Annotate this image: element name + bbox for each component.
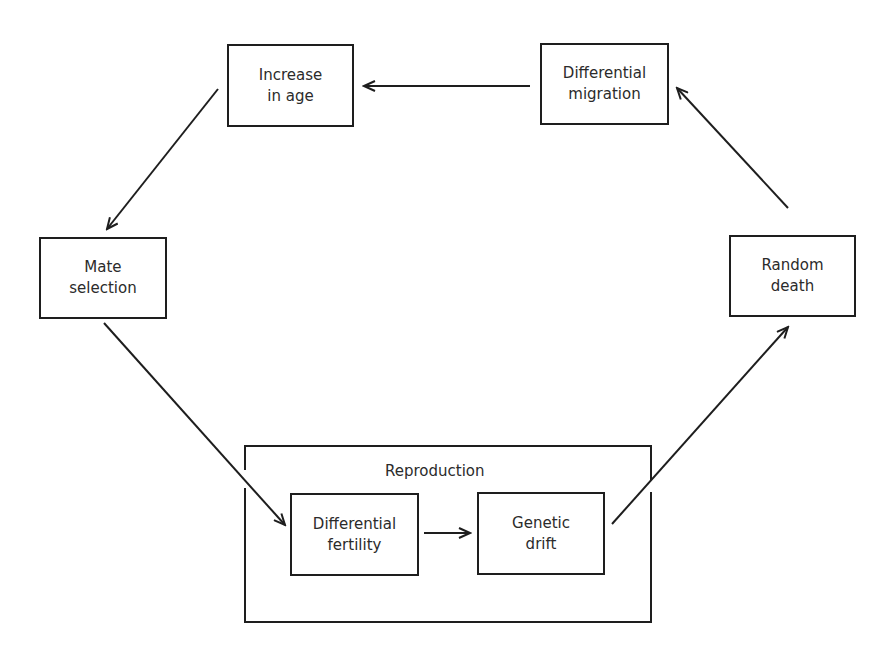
arrow-age-to-mate: [107, 89, 218, 229]
node-label-line1: Increase: [259, 65, 322, 86]
node-label-line2: drift: [512, 534, 570, 555]
node-label-line1: Differential: [313, 514, 396, 535]
node-label-line2: death: [761, 276, 823, 297]
node-label-line2: migration: [563, 84, 646, 105]
diagram-connectors: [0, 0, 890, 660]
node-increase-in-age: Increasein age: [227, 44, 354, 127]
node-differential-migration: Differentialmigration: [540, 43, 669, 125]
arrow-death-to-migration: [677, 88, 788, 208]
node-genetic-drift: Geneticdrift: [477, 492, 605, 575]
node-mate-selection: Mateselection: [39, 237, 167, 319]
node-label-line2: selection: [69, 278, 136, 299]
reproduction-label: Reproduction: [385, 462, 485, 480]
node-label-line1: Genetic: [512, 513, 570, 534]
node-label-line1: Random: [761, 255, 823, 276]
node-label-line1: Mate: [69, 257, 136, 278]
node-label-line1: Differential: [563, 63, 646, 84]
node-random-death: Randomdeath: [729, 235, 856, 317]
arrow-mate-to-fertility: [104, 323, 285, 525]
node-label-line2: in age: [259, 86, 322, 107]
node-differential-fertility: Differentialfertility: [290, 493, 419, 576]
arrow-drift-to-death: [612, 327, 788, 524]
node-label-line2: fertility: [313, 535, 396, 556]
